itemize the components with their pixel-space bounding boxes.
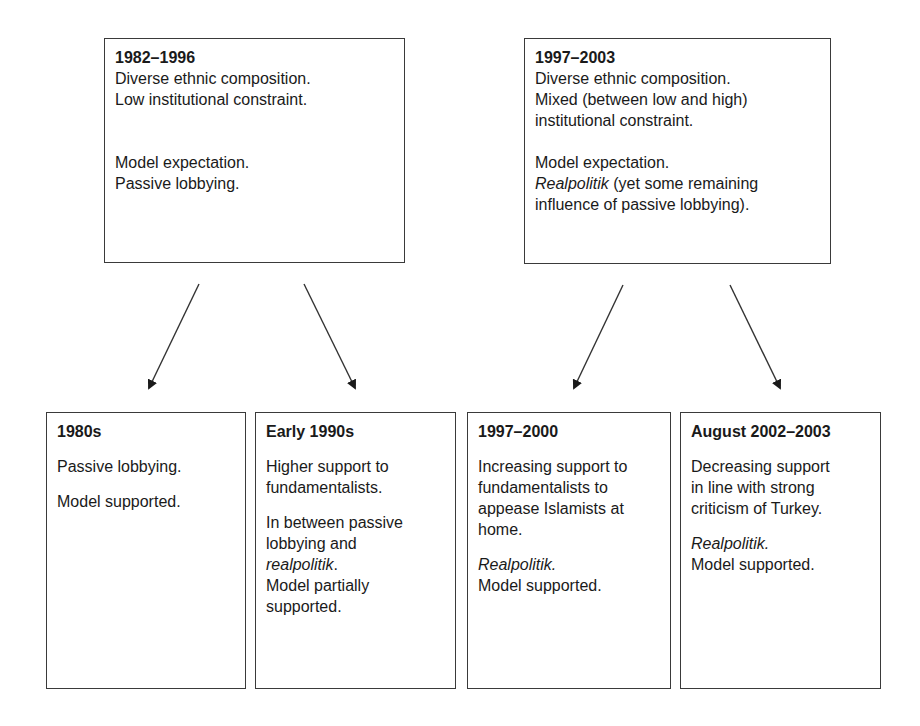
arrow-to-1997-2000 [574, 285, 623, 388]
box-line: in line with strong [691, 477, 870, 498]
verdict: Model supported. [57, 491, 235, 512]
arrow-to-1980s [149, 284, 199, 388]
box-line: Higher support to [266, 456, 445, 477]
realpolitik-term: Realpolitik. [478, 554, 660, 575]
box-title: 1997–2000 [478, 421, 660, 442]
box-line: lobbying and [266, 533, 445, 554]
box-line: Passive lobbying. [57, 456, 235, 477]
verdict: Model supported. [691, 554, 870, 575]
box-line: fundamentalists. [266, 477, 445, 498]
box-line: Decreasing support [691, 456, 870, 477]
box-line: realpolitik. [266, 554, 445, 575]
outcome-box-early-1990s: Early 1990s Higher support to fundamenta… [255, 412, 456, 689]
box-line: home. [478, 519, 660, 540]
box-title: 1980s [57, 421, 235, 442]
outcome-box-1997-2000: 1997–2000 Increasing support to fundamen… [467, 412, 671, 689]
box-line: appease Islamists at [478, 498, 660, 519]
arrow-to-early-1990s [304, 284, 355, 388]
box-line: In between passive [266, 512, 445, 533]
realpolitik-term: Realpolitik. [691, 533, 870, 554]
verdict: Model supported. [478, 575, 660, 596]
verdict-cont: supported. [266, 596, 445, 617]
outcome-box-1980s: 1980s Passive lobbying. Model supported. [46, 412, 246, 689]
verdict: Model partially [266, 575, 445, 596]
box-line: criticism of Turkey. [691, 498, 870, 519]
box-title: Early 1990s [266, 421, 445, 442]
arrow-to-aug-2002-2003 [730, 285, 780, 388]
box-title: August 2002–2003 [691, 421, 870, 442]
realpolitik-term: realpolitik [266, 556, 334, 573]
outcome-box-aug-2002-2003: August 2002–2003 Decreasing support in l… [680, 412, 881, 689]
box-line: fundamentalists to [478, 477, 660, 498]
punctuation: . [334, 556, 338, 573]
box-line: Increasing support to [478, 456, 660, 477]
